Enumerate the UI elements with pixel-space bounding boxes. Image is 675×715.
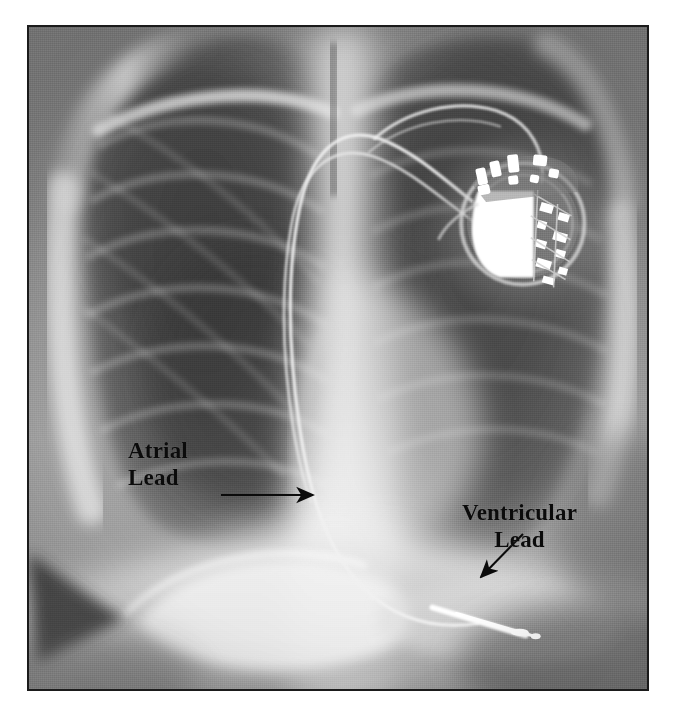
ventricular-lead-label: Ventricular Lead — [462, 500, 577, 553]
xray-film-frame — [27, 25, 649, 691]
atrial-lead-label: Atrial Lead — [128, 438, 188, 491]
ventricular-lead-label-line1: Ventricular — [462, 500, 577, 527]
radiograph-figure: Atrial Lead Ventricular Lead — [0, 0, 675, 715]
trachea — [332, 43, 335, 196]
atrial-lead-label-line1: Atrial — [128, 438, 188, 465]
xray-image — [29, 27, 647, 689]
atrial-lead-label-line2: Lead — [128, 465, 188, 492]
ventricular-lead-label-line2: Lead — [462, 527, 577, 554]
